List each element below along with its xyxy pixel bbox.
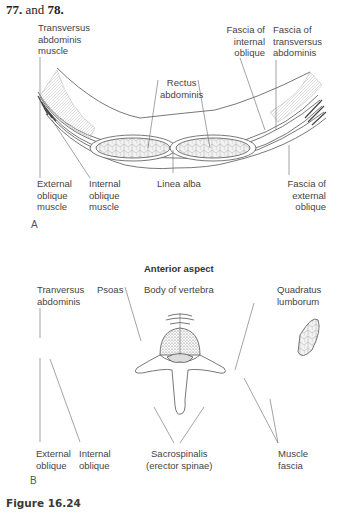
label-body-of-vertebra: Body of vertebra [144,284,214,296]
label-external-oblique-muscle: Externalobliquemuscle [37,178,72,213]
label-external-oblique: Externaloblique [36,448,71,471]
label-tranversus-abdominis: Tranversusabdominis [37,284,84,307]
panel-label-b: B [30,475,37,486]
label-fascia-transversus-abdominis: Fascia oftransversusabdominis [273,24,322,59]
figure-caption: Figure 16.24 [6,497,81,509]
label-fascia-internal-oblique: Fascia ofinternaloblique [200,24,265,59]
label-internal-oblique-muscle: Internalobliquemuscle [89,178,121,213]
label-sacrospinalis: Sacrospinalis(erector spinae) [146,448,213,471]
label-linea-alba: Linea alba [157,178,201,190]
label-rectus-abdominis: Rectusabdominis [160,77,203,100]
panel-label-a: A [31,219,38,230]
label-internal-oblique: Internaloblique [79,448,111,471]
label-transversus-abdominis-muscle: Transversusabdominismuscle [38,22,90,57]
label-fascia-external-oblique: Fascia ofexternaloblique [268,178,326,213]
label-quadratus-lumborum: Quadratuslumborum [277,284,321,307]
label-psoas: Psoas [97,284,123,296]
figure-b-vertebra [40,287,319,443]
figure-b-title: Anterior aspect [144,263,214,274]
label-muscle-fascia: Musclefascia [278,448,308,471]
figure-a-abdominal-wall [38,57,326,178]
